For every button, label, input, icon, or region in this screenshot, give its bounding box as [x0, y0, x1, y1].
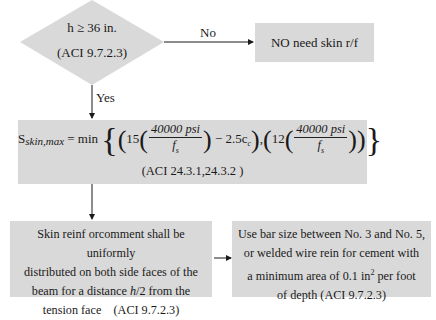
close-paren: )	[348, 125, 357, 154]
bar-size-line-4: of depth (ACI 9.7.2.3)	[236, 286, 427, 305]
close-brace: }	[366, 121, 382, 158]
denominator-sub: s	[321, 146, 324, 155]
distribution-line-2: distributed on both side faces of the	[14, 263, 208, 282]
close-paren: )	[251, 125, 260, 154]
decision-reference: (ACI 9.7.2.3)	[20, 45, 164, 61]
distribution-line-1: Skin reinf orcomment shall be uniformly	[14, 225, 208, 263]
term1-coefficient: 15	[126, 131, 139, 146]
decision-diamond	[20, 0, 164, 85]
open-paren: (	[285, 125, 294, 154]
formula-min: = min	[64, 131, 101, 146]
no-skin-reinforcement-box: NO need skin r/f	[255, 23, 374, 62]
fraction-1: 40000 psifs	[149, 122, 202, 158]
line3-post: per foot	[374, 269, 415, 283]
close-paren: )	[203, 125, 212, 154]
term2-coefficient: 12	[272, 131, 285, 146]
distribution-line-4: tension face (ACI 9.7.2.3)	[14, 301, 208, 320]
fraction-2: 40000 psifs	[294, 122, 347, 158]
bar-size-line-2: or welded wire rein for cement with	[236, 244, 427, 263]
decision-condition: h ≥ 36 in.	[20, 20, 164, 36]
numerator: 40000 psi	[296, 122, 345, 136]
no-result-text: NO need skin r/f	[271, 35, 358, 51]
spacing-formula: Sskin,max = min {(15(40000 psifs) − 2.5c…	[18, 122, 367, 158]
distribution-line-3: beam for a distance h/2 from the	[14, 282, 208, 301]
max-spacing-formula-box: Sskin,max = min {(15(40000 psifs) − 2.5c…	[18, 120, 367, 184]
formula-lhs-subscript: skin,max	[25, 135, 64, 147]
line3-pre: a minimum area of 0.1 in	[247, 269, 370, 283]
skin-reinforcement-distribution-box: Skin reinf orcomment shall be uniformly …	[10, 221, 212, 297]
line3-post: /2 from the	[136, 284, 190, 298]
line3-pre: beam for a distance	[32, 284, 130, 298]
open-paren: (	[139, 125, 148, 154]
bar-size-line-1: Use bar size between No. 3 and No. 5,	[236, 225, 427, 244]
yes-label: Yes	[96, 90, 115, 106]
formula-reference: (ACI 24.3.1,24.3.2 )	[18, 164, 367, 179]
bar-size-line-3: a minimum area of 0.1 in2 per foot	[236, 263, 427, 286]
bar-size-box: Use bar size between No. 3 and No. 5, or…	[232, 221, 431, 297]
open-paren: (	[263, 125, 272, 154]
open-brace: {	[101, 121, 117, 158]
close-paren: )	[357, 125, 366, 154]
numerator: 40000 psi	[151, 122, 200, 136]
minus-term: − 2.5c	[212, 131, 248, 146]
denominator-sub: s	[176, 146, 179, 155]
no-label: No	[200, 25, 216, 41]
